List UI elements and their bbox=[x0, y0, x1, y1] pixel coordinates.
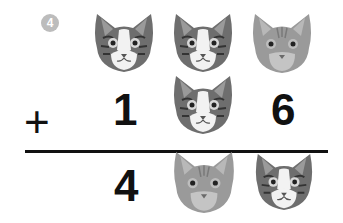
cat-face-tabby-icon bbox=[170, 72, 236, 138]
cat-face-tabby-icon bbox=[91, 10, 157, 76]
plus-operator: + bbox=[24, 100, 50, 144]
row2-digit-1: 1 bbox=[113, 88, 137, 132]
row2-digit-3: 6 bbox=[271, 88, 295, 132]
result-digit-1: 4 bbox=[114, 164, 138, 208]
puzzle-number-badge: 4 bbox=[41, 14, 59, 32]
cat-face-orange-icon bbox=[248, 10, 316, 76]
cat-face-orange-icon bbox=[170, 148, 238, 216]
cat-face-tabby-icon bbox=[252, 150, 316, 214]
cat-face-tabby-icon bbox=[170, 10, 236, 76]
